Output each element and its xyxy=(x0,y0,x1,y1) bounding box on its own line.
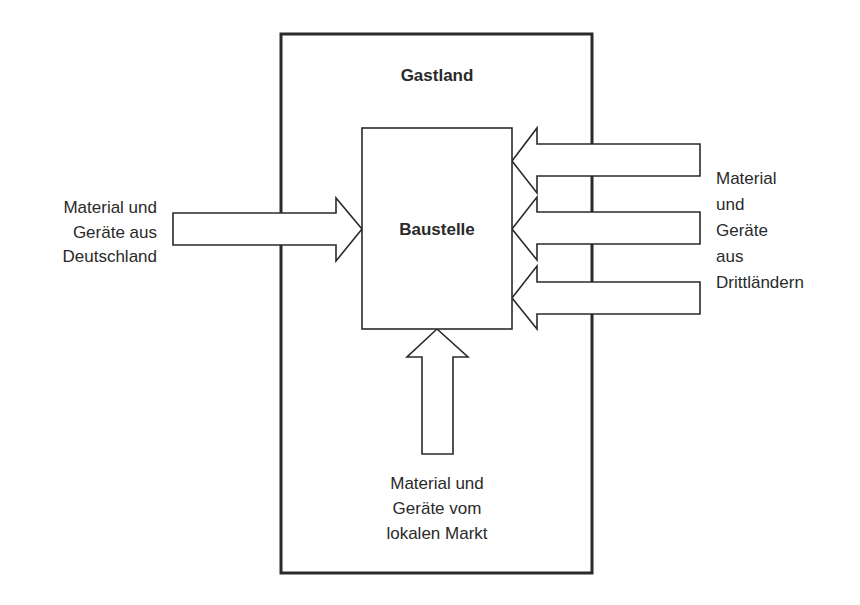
local-market-label-line-1: Material und xyxy=(390,474,484,493)
third-countries-label-line-4: aus xyxy=(716,247,743,266)
arrow-from-third-countries-2 xyxy=(512,197,700,260)
construction-site-label: Baustelle xyxy=(399,220,475,239)
germany-source-label: Material und Geräte aus Deutschland xyxy=(62,198,157,266)
local-market-source-label: Material und Geräte vom lokalen Markt xyxy=(386,474,487,543)
local-market-label-line-2: Geräte vom xyxy=(393,499,482,518)
germany-label-line-2: Geräte aus xyxy=(73,223,157,242)
arrow-from-third-countries-1 xyxy=(512,128,700,193)
third-countries-source-label: Material und Geräte aus Drittländern xyxy=(716,169,804,292)
host-country-label: Gastland xyxy=(401,66,474,85)
supply-diagram: Gastland Baustelle Material und Geräte a… xyxy=(0,0,860,605)
third-countries-label-line-3: Geräte xyxy=(716,221,768,240)
germany-label-line-1: Material und xyxy=(63,198,157,217)
arrow-from-third-countries-3 xyxy=(512,266,700,329)
third-countries-label-line-2: und xyxy=(716,195,744,214)
arrow-from-local-market xyxy=(407,329,468,454)
arrow-from-germany xyxy=(173,198,362,261)
local-market-label-line-3: lokalen Markt xyxy=(386,524,487,543)
germany-label-line-3: Deutschland xyxy=(62,247,157,266)
third-countries-label-line-1: Material xyxy=(716,169,776,188)
third-countries-label-line-5: Drittländern xyxy=(716,273,804,292)
